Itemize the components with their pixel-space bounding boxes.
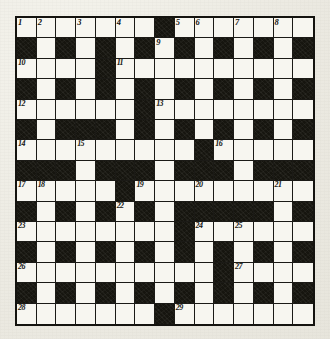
grid-cell-open[interactable]: [155, 283, 175, 303]
grid-cell-open[interactable]: [56, 181, 76, 201]
grid-cell-open[interactable]: [214, 304, 234, 324]
grid-cell-open[interactable]: [254, 140, 274, 160]
grid-cell-open[interactable]: [214, 100, 234, 120]
grid-cell-open[interactable]: [234, 59, 254, 79]
grid-cell-open[interactable]: 15: [76, 140, 96, 160]
grid-cell-open[interactable]: [293, 263, 313, 283]
grid-cell-open[interactable]: [274, 222, 294, 242]
grid-cell-open[interactable]: [214, 222, 234, 242]
grid-cell-open[interactable]: [274, 120, 294, 140]
grid-cell-open[interactable]: [155, 263, 175, 283]
grid-cell-open[interactable]: [96, 222, 116, 242]
grid-cell-open[interactable]: 19: [135, 181, 155, 201]
grid-cell-open[interactable]: [76, 283, 96, 303]
grid-cell-open[interactable]: [96, 100, 116, 120]
grid-cell-open[interactable]: [37, 140, 57, 160]
grid-cell-open[interactable]: [96, 18, 116, 38]
grid-cell-open[interactable]: 12: [17, 100, 37, 120]
grid-cell-open[interactable]: [56, 304, 76, 324]
grid-cell-open[interactable]: [76, 79, 96, 99]
grid-cell-open[interactable]: [37, 59, 57, 79]
grid-cell-open[interactable]: [56, 140, 76, 160]
grid-cell-open[interactable]: 25: [234, 222, 254, 242]
grid-cell-open[interactable]: [293, 18, 313, 38]
grid-cell-open[interactable]: [76, 242, 96, 262]
grid-cell-open[interactable]: [175, 263, 195, 283]
grid-cell-open[interactable]: [116, 242, 136, 262]
grid-cell-open[interactable]: [37, 242, 57, 262]
grid-cell-open[interactable]: [195, 38, 215, 58]
grid-cell-open[interactable]: [155, 161, 175, 181]
grid-cell-open[interactable]: [76, 304, 96, 324]
grid-cell-open[interactable]: 8: [274, 18, 294, 38]
grid-cell-open[interactable]: [56, 100, 76, 120]
grid-cell-open[interactable]: [56, 18, 76, 38]
grid-cell-open[interactable]: [76, 202, 96, 222]
grid-cell-open[interactable]: 13: [155, 100, 175, 120]
grid-cell-open[interactable]: [274, 59, 294, 79]
grid-cell-open[interactable]: 10: [17, 59, 37, 79]
grid-cell-open[interactable]: [135, 263, 155, 283]
grid-cell-open[interactable]: [234, 79, 254, 99]
grid-cell-open[interactable]: [175, 100, 195, 120]
grid-cell-open[interactable]: [195, 59, 215, 79]
grid-cell-open[interactable]: [254, 263, 274, 283]
grid-cell-open[interactable]: [116, 222, 136, 242]
grid-cell-open[interactable]: [274, 38, 294, 58]
grid-cell-open[interactable]: [37, 202, 57, 222]
grid-cell-open[interactable]: 23: [17, 222, 37, 242]
grid-cell-open[interactable]: [234, 120, 254, 140]
grid-cell-open[interactable]: [155, 181, 175, 201]
grid-cell-open[interactable]: 11: [116, 59, 136, 79]
grid-cell-open[interactable]: 20: [195, 181, 215, 201]
grid-cell-open[interactable]: [234, 283, 254, 303]
grid-cell-open[interactable]: [274, 283, 294, 303]
grid-cell-open[interactable]: [135, 222, 155, 242]
grid-cell-open[interactable]: [274, 304, 294, 324]
grid-cell-open[interactable]: [254, 304, 274, 324]
grid-cell-open[interactable]: [293, 59, 313, 79]
grid-cell-open[interactable]: [195, 79, 215, 99]
grid-cell-open[interactable]: [214, 181, 234, 201]
grid-cell-open[interactable]: [116, 304, 136, 324]
grid-cell-open[interactable]: [234, 304, 254, 324]
grid-cell-open[interactable]: [214, 59, 234, 79]
grid-cell-open[interactable]: [116, 79, 136, 99]
grid-cell-open[interactable]: [76, 181, 96, 201]
grid-cell-open[interactable]: 21: [274, 181, 294, 201]
grid-cell-open[interactable]: [96, 304, 116, 324]
grid-cell-open[interactable]: [214, 18, 234, 38]
grid-cell-open[interactable]: [195, 120, 215, 140]
grid-cell-open[interactable]: [274, 79, 294, 99]
grid-cell-open[interactable]: [234, 181, 254, 201]
grid-cell-open[interactable]: [175, 181, 195, 201]
grid-cell-open[interactable]: [155, 202, 175, 222]
grid-cell-open[interactable]: [37, 79, 57, 99]
grid-cell-open[interactable]: [135, 18, 155, 38]
grid-cell-open[interactable]: 5: [175, 18, 195, 38]
grid-cell-open[interactable]: [155, 222, 175, 242]
grid-cell-open[interactable]: [234, 242, 254, 262]
grid-cell-open[interactable]: 18: [37, 181, 57, 201]
grid-cell-open[interactable]: [195, 304, 215, 324]
grid-cell-open[interactable]: [195, 100, 215, 120]
crossword-grid[interactable]: 1234567891011121314151617181920212223242…: [15, 16, 315, 326]
grid-cell-open[interactable]: 27: [234, 263, 254, 283]
grid-cell-open[interactable]: [234, 100, 254, 120]
grid-cell-open[interactable]: [116, 283, 136, 303]
grid-cell-open[interactable]: [37, 304, 57, 324]
grid-cell-open[interactable]: [195, 263, 215, 283]
grid-cell-open[interactable]: [254, 18, 274, 38]
grid-cell-open[interactable]: [37, 283, 57, 303]
grid-cell-open[interactable]: [116, 140, 136, 160]
grid-cell-open[interactable]: 1: [17, 18, 37, 38]
grid-cell-open[interactable]: [274, 202, 294, 222]
grid-cell-open[interactable]: [254, 181, 274, 201]
grid-cell-open[interactable]: [195, 283, 215, 303]
grid-cell-open[interactable]: [96, 181, 116, 201]
grid-cell-open[interactable]: [56, 263, 76, 283]
grid-cell-open[interactable]: [116, 263, 136, 283]
grid-cell-open[interactable]: 6: [195, 18, 215, 38]
grid-cell-open[interactable]: [293, 181, 313, 201]
grid-cell-open[interactable]: 28: [17, 304, 37, 324]
